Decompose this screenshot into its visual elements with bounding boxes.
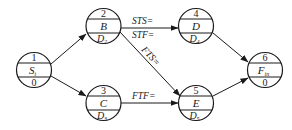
node-3-name: C (100, 97, 108, 109)
node-2: 2 B D2 (86, 8, 121, 45)
node-5-name: E (192, 97, 200, 109)
edge-labels: STS= STF= FTS= FTF= (131, 16, 162, 101)
node-6-number: 6 (263, 52, 268, 63)
node-2-number: 2 (101, 8, 106, 19)
edge-label-ftf: FTF= (131, 91, 155, 101)
node-3-number: 3 (101, 85, 106, 96)
edge-label-stf: STF= (132, 30, 154, 40)
node-1-number: 1 (32, 52, 37, 63)
node-6: 6 Fin 0 (248, 52, 283, 88)
node-3: 3 C D3 (86, 85, 121, 122)
precedence-network-diagram: STS= STF= FTS= FTF= 1 St 0 2 B D2 3 C D3… (0, 0, 292, 130)
node-2-name: B (100, 20, 107, 32)
node-6-duration: 0 (263, 77, 268, 88)
node-4-name: D (191, 20, 200, 32)
edge-2-5 (120, 32, 180, 96)
edge-4-6 (213, 33, 248, 62)
node-5: 5 E D5 (179, 85, 214, 122)
edge-1-3 (51, 76, 86, 96)
node-4: 4 D D4 (179, 8, 214, 45)
edge-1-2 (51, 34, 86, 64)
node-4-number: 4 (194, 8, 199, 19)
edge-5-6 (213, 78, 248, 96)
node-1: 1 St 0 (17, 52, 52, 88)
node-5-number: 5 (194, 85, 199, 96)
node-1-duration: 0 (32, 77, 37, 88)
edge-label-sts: STS= (132, 16, 153, 26)
